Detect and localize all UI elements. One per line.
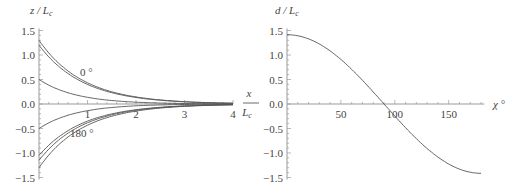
y-tick-label: 1.5: [269, 25, 283, 37]
annotation-180-deg: 180 °: [70, 127, 94, 139]
curve-upper-2: [39, 45, 233, 103]
annotation-0-deg: 0 °: [80, 66, 93, 78]
x-tick-label: 150: [440, 108, 457, 120]
right-x-axis-label: χ °: [492, 98, 506, 110]
y-tick-label: 0.0: [21, 98, 35, 110]
x-tick-label: 4: [230, 108, 236, 120]
right-plot: 1.51.00.50.0−0.5−1.0−1.550100150: [263, 25, 484, 184]
x-tick-label: 50: [335, 108, 347, 120]
y-tick-label: 1.5: [21, 25, 35, 37]
left-plot: 1.51.00.50.0−0.5−1.0−1.51234: [15, 25, 236, 184]
y-tick-label: 0.5: [269, 74, 283, 86]
x-tick-label: 3: [182, 108, 188, 120]
left-x-axis-label-denominator: Lc: [241, 106, 252, 120]
left-y-axis-label: z / Lc: [29, 4, 53, 18]
y-tick-label: −1.5: [263, 172, 283, 184]
y-tick-label: −1.0: [263, 147, 283, 159]
y-tick-label: 1.0: [21, 49, 35, 61]
figure: 1.51.00.50.0−0.5−1.0−1.51234 1.51.00.50.…: [0, 0, 521, 194]
y-tick-label: 1.0: [269, 49, 283, 61]
y-tick-label: 0.5: [21, 74, 35, 86]
y-tick-label: 0.0: [269, 98, 283, 110]
curve-upper-1: [39, 40, 233, 103]
x-tick-label: 1: [85, 108, 91, 120]
right-y-axis-label: d / Lc: [275, 4, 299, 18]
y-tick-label: −0.5: [15, 123, 35, 135]
y-tick-label: −0.5: [263, 123, 283, 135]
left-x-axis-label-numerator: x: [246, 87, 252, 99]
y-tick-label: −1.0: [15, 147, 35, 159]
y-tick-label: −1.5: [15, 172, 35, 184]
